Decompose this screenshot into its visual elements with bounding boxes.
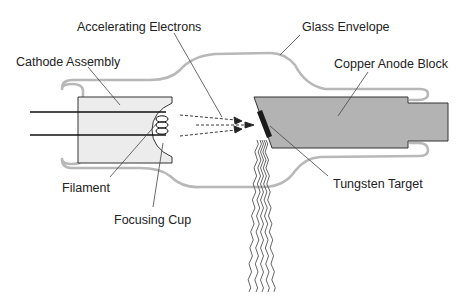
cathode-body <box>78 97 172 163</box>
electron-beam <box>180 115 254 136</box>
leader-glass-envelope <box>280 35 300 55</box>
leader-accelerating-electrons <box>174 33 222 117</box>
label-filament: Filament <box>62 181 110 195</box>
label-tungsten-target: Tungsten Target <box>333 177 423 191</box>
label-accelerating-electrons: Accelerating Electrons <box>77 20 201 34</box>
copper-anode-block <box>254 97 448 148</box>
label-glass-envelope: Glass Envelope <box>302 20 390 34</box>
xray-emission <box>248 140 276 292</box>
label-cathode-assembly: Cathode Assembly <box>16 55 121 69</box>
filament-coil <box>156 116 168 134</box>
label-copper-anode-block: Copper Anode Block <box>334 57 449 71</box>
xray-tube-diagram: Accelerating Electrons Glass Envelope Ca… <box>0 0 474 299</box>
label-focusing-cup: Focusing Cup <box>114 213 191 227</box>
